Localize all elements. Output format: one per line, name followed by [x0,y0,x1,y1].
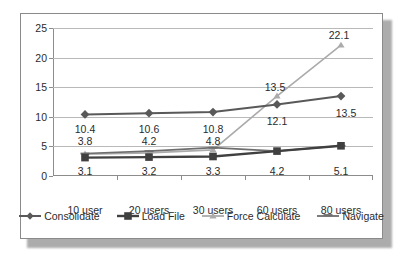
value-label-load-file-2: 3.2 [142,165,157,177]
xtick-mark-2 [181,176,182,180]
chart-card: 25 20 15 10 5 0 [20,13,383,239]
value-label-navigate-3: 4.8 [206,135,221,147]
ytick-label-20: 20 [35,52,47,64]
square-marker-icon [117,211,139,221]
value-label-load-file-4: 4.2 [270,165,285,177]
legend-label-consolidate: Consolidate [44,210,99,222]
line-marker-icon [317,211,339,221]
value-label-load-file-1: 3.1 [78,165,93,177]
ytick-mark-0 [49,176,53,177]
legend-label-force-calculate: Force Calculate [227,210,301,222]
value-label-consolidate-5: 13.5 [336,107,356,119]
value-label-navigate-1: 3.8 [78,135,93,147]
value-label-force-calculate-5: 22.1 [329,29,349,41]
value-label-load-file-5: 5.1 [334,165,349,177]
legend-item-consolidate[interactable]: Consolidate [19,210,99,222]
value-label-consolidate-2: 10.6 [139,123,159,135]
series-layer [53,28,373,176]
legend-item-force-calculate[interactable]: Force Calculate [202,210,301,222]
value-label-force-calculate-4: 13.5 [265,81,285,93]
xtick-mark-1 [117,176,118,180]
legend-item-load-file[interactable]: Load File [117,210,185,222]
legend-label-load-file: Load File [142,210,185,222]
xtick-mark-3 [245,176,246,180]
legend-item-navigate[interactable]: Navigate [317,210,383,222]
xtick-mark-4 [309,176,310,180]
ytick-label-0: 0 [41,170,47,182]
ytick-label-25: 25 [35,22,47,34]
series-consolidate [81,92,346,119]
screenshot-root: 25 20 15 10 5 0 [0,0,404,258]
legend-label-navigate: Navigate [342,210,383,222]
xtick-mark-5 [372,176,373,180]
value-label-consolidate-3: 10.8 [203,123,223,135]
value-label-load-file-3: 3.3 [206,165,221,177]
value-label-consolidate-4: 12.1 [267,115,287,127]
ytick-label-5: 5 [41,140,47,152]
value-label-consolidate-1: 10.4 [75,123,95,135]
plot-area: 25 20 15 10 5 0 [53,28,373,176]
triangle-marker-icon [202,211,224,221]
value-label-navigate-2: 4.2 [142,135,157,147]
ytick-label-10: 10 [35,111,47,123]
ytick-label-15: 15 [35,81,47,93]
diamond-marker-icon [19,211,41,221]
chart-legend: Consolidate Load File Force Calculate [21,210,382,222]
